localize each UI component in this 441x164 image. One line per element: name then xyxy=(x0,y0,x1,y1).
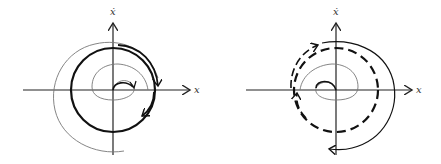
right-phase-portrait xyxy=(246,23,412,155)
right-outer-spiral xyxy=(322,42,395,150)
right-inner-arrow xyxy=(316,82,336,91)
left-inner-arrow xyxy=(113,83,133,90)
right-x-axis-label: x xyxy=(416,85,422,95)
left-y-axis-label: ẋ xyxy=(110,7,116,17)
left-inner-spiral xyxy=(92,64,148,100)
right-y-axis-label: ẋ xyxy=(333,7,339,17)
left-phase-portrait xyxy=(23,23,190,155)
phase-portraits xyxy=(0,0,441,164)
left-outer-arrow xyxy=(118,45,158,86)
left-x-axis-label: x xyxy=(194,85,200,95)
